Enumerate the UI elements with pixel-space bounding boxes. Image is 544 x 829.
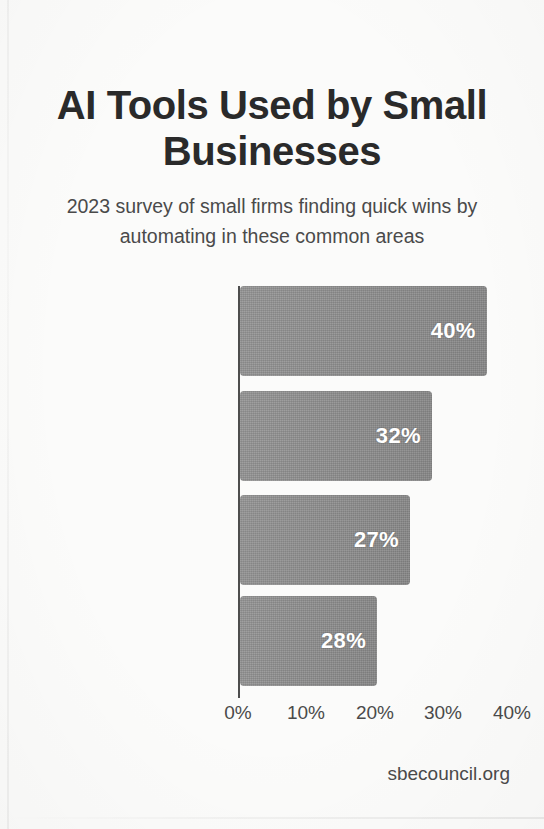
chart-subtitle: 2023 survey of small firms finding quick…: [52, 191, 492, 251]
source-attribution: sbecouncil.org: [387, 763, 510, 785]
bar: 27%: [240, 495, 410, 585]
plot-area: Financial Management40%Email Marketing A…: [0, 286, 544, 698]
x-tick-label: 20%: [340, 702, 410, 724]
x-axis-ticks: 0%10%20%30%40%: [0, 702, 544, 736]
x-tick-label: 10%: [271, 702, 341, 724]
bar-value-label: 40%: [431, 318, 476, 344]
bar: 32%: [240, 391, 432, 481]
bar-value-label: 27%: [354, 527, 399, 553]
scan-edge-bottom: [0, 817, 544, 819]
bar: 40%: [240, 286, 487, 376]
x-tick-label: 0%: [203, 702, 273, 724]
bar: 28%: [240, 596, 377, 686]
bar-value-label: 32%: [376, 423, 421, 449]
bar-value-label: 28%: [321, 628, 366, 654]
chart-title: AI Tools Used by Small Businesses: [0, 82, 544, 174]
chart-page: AI Tools Used by Small Businesses 2023 s…: [0, 0, 544, 829]
x-tick-label: 40%: [477, 702, 544, 724]
x-tick-label: 30%: [408, 702, 478, 724]
